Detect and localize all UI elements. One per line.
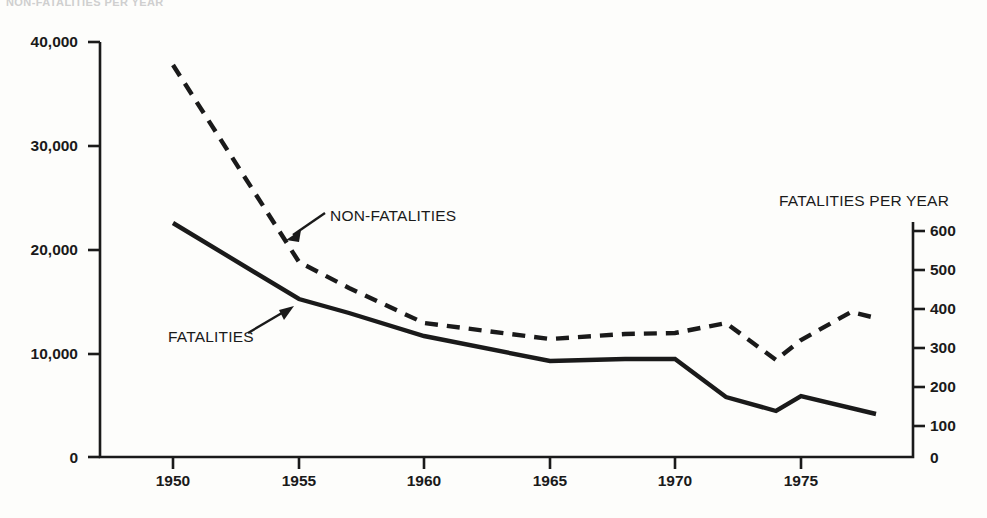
right-axis-ticks [913,231,925,426]
chart-figure: NON-FATALITIES PER YEAR FATALITIES PER Y… [0,0,987,518]
series-fatalities-line [173,223,876,414]
axis-spines [100,42,913,457]
left-axis-ticks [88,42,100,457]
chart-plot-area [0,0,987,518]
x-axis-ticks [173,457,801,469]
fatalities-leader-arrow [248,306,294,333]
non-fatalities-leader-arrow [286,213,325,242]
